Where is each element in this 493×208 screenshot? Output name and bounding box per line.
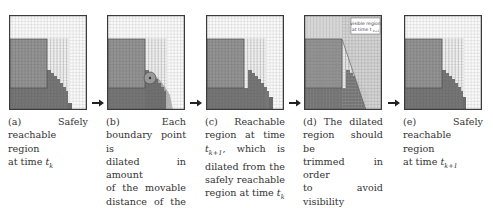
- caption-line: boundary point is: [106, 128, 186, 155]
- boundary-point: [149, 77, 151, 79]
- panel-e-grid: [404, 15, 482, 110]
- reachable-tail: [463, 97, 466, 110]
- caption-line: at time tk+1: [403, 155, 483, 173]
- annotation-subscript: k+1: [373, 29, 379, 33]
- arrow-right-icon: [190, 99, 202, 107]
- annotation-line-1: visible region: [350, 21, 381, 26]
- caption-line: trimmed in order: [303, 155, 383, 182]
- caption-line: dilated from the: [205, 160, 285, 173]
- caption-line: (c) Reachable: [205, 115, 285, 128]
- caption-line: region at time: [205, 128, 285, 141]
- caption-line: reachable region: [8, 128, 88, 155]
- reachable-tail: [269, 97, 273, 110]
- caption-line: region at time tk: [205, 186, 285, 204]
- caption-line: (d) The dilated: [303, 115, 383, 128]
- arrow-right-icon: [289, 99, 301, 107]
- caption-e: (e) Safelyreachable regionat time tk+1: [403, 115, 483, 173]
- arrow-right-icon: [388, 99, 400, 107]
- caption-line: distance of the: [106, 195, 186, 208]
- caption-line: safely reachable: [205, 173, 285, 186]
- caption-line: (b) Each: [106, 115, 186, 128]
- panel-d-grid: visible regionat time t k+1: [304, 15, 382, 110]
- caption-line: region should be: [303, 128, 383, 155]
- caption-line: (e) Safely: [403, 115, 483, 128]
- panel-c-grid: [206, 15, 284, 110]
- caption-line: at time tk: [8, 155, 88, 173]
- caption-line: reachable region: [403, 128, 483, 155]
- caption-c: (c) Reachableregion at timetk+1, which i…: [205, 115, 285, 205]
- caption-line: (a) Safely: [8, 115, 88, 128]
- caption-b: (b) Eachboundary point isdilated in amou…: [106, 115, 186, 208]
- caption-d: (d) The dilatedregion should betrimmed i…: [303, 115, 383, 208]
- panel-b-grid: [107, 15, 185, 110]
- caption-line: to avoid visibility: [303, 181, 383, 208]
- panel-a-grid: [9, 15, 87, 110]
- panel-d-svg: visible regionat time t k+1: [304, 15, 382, 110]
- arrow-right-icon: [92, 99, 104, 107]
- panel-b-svg: [107, 15, 185, 110]
- reachable-tail: [68, 103, 72, 109]
- caption-line: dilated in amount: [106, 155, 186, 182]
- panel-a-svg: [9, 15, 87, 110]
- panel-e-svg: [404, 15, 482, 110]
- caption-line: of the movable: [106, 181, 186, 194]
- caption-a: (a) Safelyreachable regionat time tk: [8, 115, 88, 173]
- panel-c-svg: [206, 15, 284, 110]
- caption-line: tk+1, which is: [205, 142, 285, 160]
